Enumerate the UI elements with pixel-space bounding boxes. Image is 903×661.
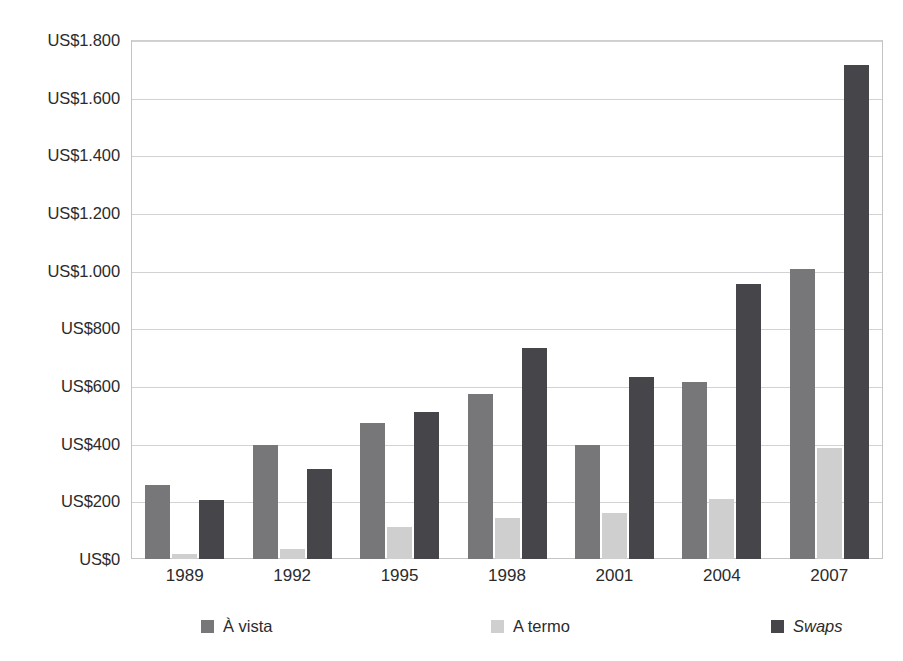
bar	[682, 382, 707, 559]
bar	[844, 65, 869, 559]
y-tick-label: US$400	[61, 434, 120, 453]
bar	[172, 554, 197, 559]
legend-swatch-icon	[771, 620, 784, 633]
y-axis: US$0US$200US$400US$600US$800US$1.000US$1…	[0, 40, 120, 559]
bar	[790, 269, 815, 559]
legend-item[interactable]: A termo	[491, 617, 570, 636]
legend-item[interactable]: À vista	[201, 617, 273, 636]
chart-legend: À vistaA termoSwaps	[131, 617, 883, 645]
bar	[575, 445, 600, 559]
bar	[522, 348, 547, 559]
bars-layer	[131, 40, 883, 559]
y-tick-label: US$1.200	[47, 204, 120, 223]
y-tick-label: US$1.600	[47, 88, 120, 107]
bar	[280, 549, 305, 559]
y-tick-label: US$1.400	[47, 146, 120, 165]
x-tick-label: 1995	[381, 566, 419, 586]
bar	[414, 412, 439, 559]
bar	[199, 500, 224, 559]
bar	[253, 445, 278, 559]
legend-swatch-icon	[491, 620, 504, 633]
bar	[360, 423, 385, 559]
x-tick-label: 2001	[596, 566, 634, 586]
bar	[387, 527, 412, 559]
bar	[495, 518, 520, 559]
bar	[629, 377, 654, 559]
bar	[307, 469, 332, 559]
y-tick-label: US$200	[61, 492, 120, 511]
legend-item[interactable]: Swaps	[771, 617, 843, 636]
x-tick-label: 2004	[703, 566, 741, 586]
bar	[709, 499, 734, 559]
x-tick-label: 1998	[488, 566, 526, 586]
x-tick-label: 1989	[166, 566, 204, 586]
bar	[736, 284, 761, 559]
y-tick-label: US$0	[79, 550, 120, 569]
legend-label: Swaps	[793, 617, 843, 636]
chart-figure: US$0US$200US$400US$600US$800US$1.000US$1…	[0, 0, 903, 661]
y-tick-label: US$800	[61, 319, 120, 338]
y-tick-label: US$1.800	[47, 31, 120, 50]
y-tick-label: US$1.000	[47, 261, 120, 280]
legend-label: A termo	[513, 617, 570, 636]
x-tick-label: 1992	[273, 566, 311, 586]
y-tick-label: US$600	[61, 377, 120, 396]
x-tick-label: 2007	[810, 566, 848, 586]
bar	[602, 513, 627, 559]
bar	[817, 448, 842, 559]
legend-label: À vista	[223, 617, 273, 636]
legend-swatch-icon	[201, 620, 214, 633]
x-axis: 1989199219951998200120042007	[131, 566, 883, 596]
caption-remnant	[180, 0, 640, 2]
bar	[468, 394, 493, 559]
bar	[145, 485, 170, 559]
